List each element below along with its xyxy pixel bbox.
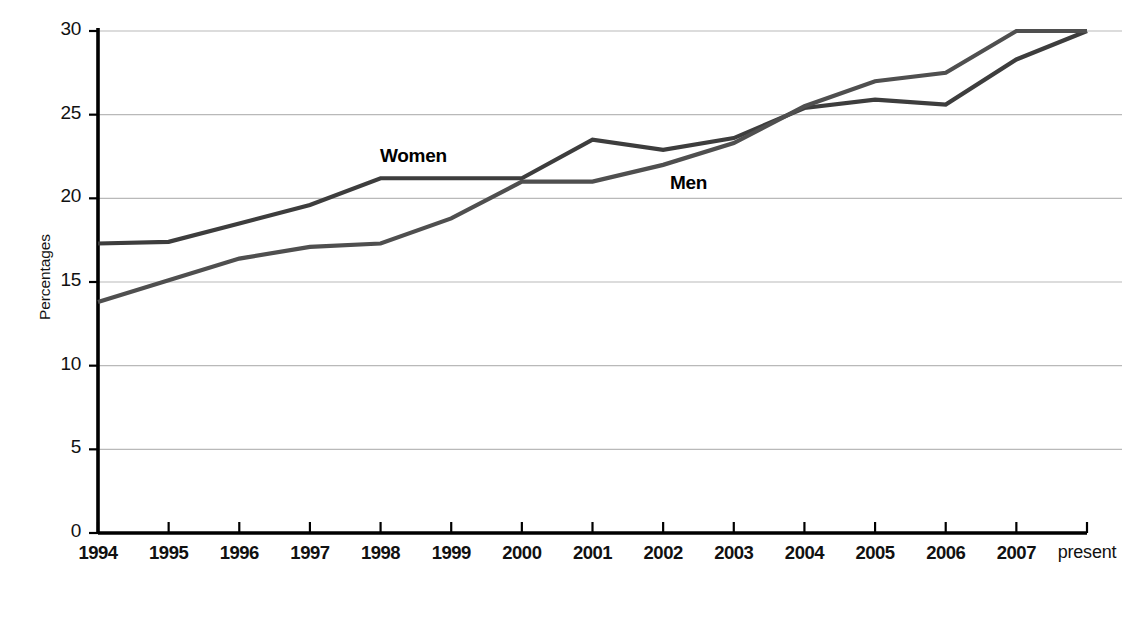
y-tick-label-20: 20 (19, 185, 81, 207)
series-line-women (98, 31, 1087, 244)
y-tick-label-25: 25 (19, 102, 81, 124)
y-tick-label-5: 5 (19, 436, 81, 458)
line-chart: Percentages 051015202530 199419951996199… (0, 0, 1132, 618)
y-tick-label-15: 15 (19, 269, 81, 291)
series-line-men (98, 31, 1087, 302)
chart-plot-area (0, 0, 1132, 618)
y-tick-label-10: 10 (19, 353, 81, 375)
y-tick-label-30: 30 (19, 18, 81, 40)
series-label-women: Women (380, 145, 447, 167)
y-tick-label-0: 0 (19, 520, 81, 542)
x-tick-label-present: present (1027, 542, 1132, 563)
series-label-men: Men (670, 172, 707, 194)
